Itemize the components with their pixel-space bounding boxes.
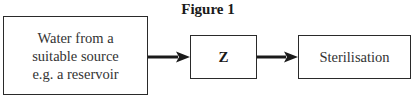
- sterilisation-box: Sterilisation: [298, 35, 411, 79]
- water-source-box: Water from a suitable source e.g. a rese…: [3, 16, 148, 95]
- water-source-line-2: suitable source: [32, 47, 119, 65]
- arrow-z-to-sterilisation: [257, 50, 298, 64]
- arrow-right-icon: [257, 50, 298, 64]
- arrow-right-icon: [148, 50, 190, 64]
- sterilisation-label: Sterilisation: [319, 48, 389, 66]
- water-source-line-1: Water from a: [37, 29, 113, 47]
- water-source-line-3: e.g. a reservoir: [32, 65, 118, 83]
- process-z-box: Z: [190, 35, 257, 79]
- process-z-label: Z: [218, 48, 228, 66]
- arrow-source-to-z: [148, 50, 190, 64]
